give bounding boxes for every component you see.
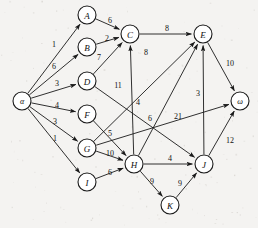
edge-weight-G-H: 10 [106, 149, 114, 158]
speckle [132, 207, 133, 208]
edge-weight-alpha-F: 4 [55, 101, 59, 110]
speckle [217, 182, 218, 183]
speckle [56, 29, 57, 31]
speckle [1, 55, 2, 56]
speckle [185, 174, 186, 175]
speckle [237, 212, 238, 213]
speckle [17, 159, 18, 160]
speckle [246, 68, 247, 69]
speckle [19, 140, 21, 141]
speckle [139, 52, 140, 53]
speckle [147, 80, 148, 81]
speckle [65, 222, 66, 223]
edge-weight-D-J: 11 [114, 81, 122, 90]
edge-weight-J-E: 3 [196, 89, 200, 98]
speckle [225, 39, 226, 40]
speckle [68, 27, 70, 29]
node-alpha: α [13, 92, 31, 110]
speckle [4, 12, 5, 13]
node-label-F: F [83, 110, 90, 120]
node-label-C: C [127, 30, 134, 40]
node-A: A [78, 6, 96, 24]
edge-weight-B-C: 2 [105, 34, 109, 43]
speckle [205, 132, 206, 133]
speckle [215, 104, 217, 105]
speckle [251, 92, 253, 93]
speckle [149, 218, 150, 219]
edge-J-to-E [203, 46, 204, 155]
speckle [97, 90, 99, 92]
speckle [52, 156, 53, 158]
edge-weight-I-H: 6 [108, 168, 112, 177]
speckle [179, 92, 180, 93]
speckle [184, 145, 185, 146]
edge-weight-D-C: 7 [97, 53, 101, 62]
node-label-H: H [130, 160, 138, 170]
edge-H-to-C [130, 46, 133, 155]
edge-weight-alpha-B: 6 [52, 62, 56, 71]
speckle [26, 80, 27, 82]
node-G: G [78, 139, 96, 157]
speckle [33, 219, 34, 220]
speckle [43, 211, 45, 212]
node-label-D: D [83, 77, 91, 87]
edge-weight-K-J: 9 [178, 179, 182, 188]
speckle [205, 184, 207, 185]
speckle [165, 111, 166, 112]
speckle [12, 207, 13, 208]
speckle [183, 31, 185, 32]
speckle [41, 43, 42, 44]
graph-figure: 16343162788114621103125106499 αABCDEFGHI… [0, 0, 258, 228]
speckle [41, 1, 43, 3]
edge-weight-A-C: 6 [108, 16, 112, 25]
edge-weight-H-K: 9 [150, 177, 154, 186]
speckle [43, 62, 44, 63]
speckle [35, 187, 36, 188]
speckle [115, 191, 116, 192]
node-label-G: G [84, 144, 91, 154]
speckle [140, 198, 141, 199]
speckle [126, 44, 127, 46]
speckle [204, 215, 205, 216]
speckle [138, 191, 139, 193]
edge-weight-C-E: 8 [165, 24, 169, 33]
speckle [179, 84, 180, 85]
speckle [131, 176, 132, 177]
speckle [200, 44, 201, 45]
speckle [95, 167, 97, 168]
speckle [235, 154, 237, 156]
edge-weight-F-H: 5 [108, 129, 112, 138]
speckle [92, 218, 93, 220]
speckle [253, 135, 254, 137]
speckle [50, 100, 52, 101]
node-K: K [161, 196, 179, 214]
node-J: J [195, 155, 213, 173]
speckle [146, 206, 147, 208]
speckle [154, 159, 156, 160]
speckle [206, 186, 207, 187]
speckle [63, 10, 64, 11]
speckle [178, 76, 180, 77]
edge-weight-G-E: 8 [144, 48, 148, 57]
speckle [169, 69, 170, 71]
speckle [257, 101, 258, 102]
speckle [137, 176, 138, 178]
speckle [171, 128, 172, 129]
speckle [255, 217, 256, 218]
speckle [91, 220, 92, 221]
speckle [168, 74, 170, 75]
edge-weight-G-omega: 21 [174, 112, 182, 121]
node-H: H [125, 155, 143, 173]
speckle [99, 214, 100, 215]
speckle [222, 224, 224, 225]
speckle [34, 172, 36, 173]
speckle [196, 121, 197, 122]
node-label-E: E [199, 30, 206, 40]
node-label-K: K [166, 201, 174, 211]
speckle [196, 71, 198, 72]
edge-weight-J-omega: 12 [226, 136, 234, 145]
edge-weight-H-C: 4 [136, 98, 140, 107]
speckle [234, 175, 235, 176]
edge-alpha-to-F [31, 103, 75, 112]
node-C: C [121, 25, 139, 43]
